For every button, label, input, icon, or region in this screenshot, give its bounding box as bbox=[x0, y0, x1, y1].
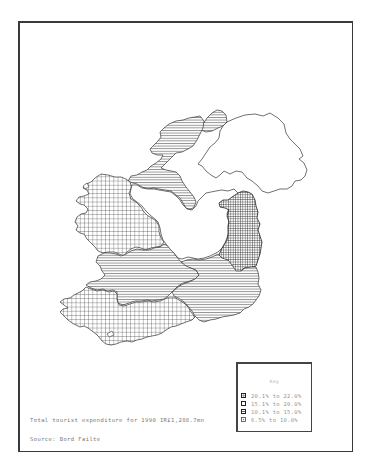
dotted-swatch-icon bbox=[241, 417, 246, 422]
legend-label: 6.5% to 10.0% bbox=[251, 417, 298, 423]
total-expenditure-note: Total tourist expenditure for 1990 IR£1,… bbox=[30, 417, 204, 423]
legend-item: 20.1% to 22.0% bbox=[241, 392, 302, 399]
legend-title: Key bbox=[238, 379, 311, 384]
legend-label: 10.1% to 15.0% bbox=[251, 409, 302, 415]
legend-item: 6.5% to 10.0% bbox=[241, 416, 298, 423]
legend: Key 20.1% to 22.0% 15.1% to 20.0% 10.1% … bbox=[236, 362, 312, 432]
coarse-grid-swatch-icon bbox=[241, 401, 246, 406]
legend-item: 10.1% to 15.0% bbox=[241, 408, 302, 415]
legend-label: 15.1% to 20.0% bbox=[251, 401, 302, 407]
ireland-map bbox=[0, 0, 370, 472]
source-note: Source: Bord Failte bbox=[30, 436, 101, 442]
legend-item: 15.1% to 20.0% bbox=[241, 400, 302, 407]
horizontal-lines-swatch-icon bbox=[241, 409, 246, 414]
legend-label: 20.1% to 22.0% bbox=[251, 393, 302, 399]
dense-grid-swatch-icon bbox=[241, 393, 246, 398]
